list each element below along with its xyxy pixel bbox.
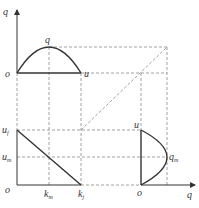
kj-label: kj [78,188,84,200]
qm-label: qm [169,151,179,163]
uf-label: uf [2,124,10,136]
dashed-guides [17,47,167,185]
speed-flow-plot: u qm o q [134,119,195,200]
u-end-label: u [84,68,89,79]
u-axis-label: u [134,119,139,130]
q-axis-label: q [187,189,192,200]
speed-density-plot: uf um o km kj [2,124,84,200]
origin-label: o [5,184,10,195]
um-label: um [2,151,12,163]
origin-label: o [5,68,10,79]
q-axis-label: q [3,6,8,17]
peak-q-label: q [45,34,50,45]
speed-flow-curve [141,130,167,185]
flow-density-plot: q o q u [3,6,89,79]
origin-label: o [137,187,142,198]
km-label: km [44,188,53,200]
fundamental-diagram-figure: q o q u uf um o km kj u qm o q [0,0,199,208]
